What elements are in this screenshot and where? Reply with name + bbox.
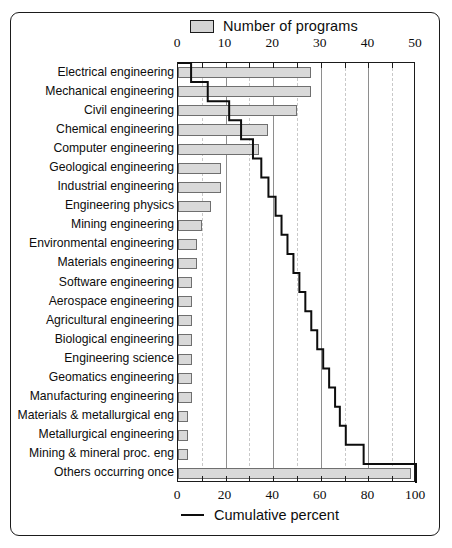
category-label: Industrial engineering [14, 179, 174, 193]
category-axis-labels: Electrical engineeringMechanical enginee… [14, 62, 174, 482]
legend-number-of-programs: Number of programs [190, 16, 358, 36]
axis-tick-label: 30 [313, 35, 327, 51]
axis-tick-label: 40 [361, 35, 375, 51]
cumulative-line-path [178, 63, 416, 483]
top-axis-tick-labels: 01020304050 [177, 35, 415, 51]
legend-bottom-label: Cumulative percent [214, 507, 339, 523]
axis-tick-label: 80 [361, 487, 375, 503]
axis-tick-label: 20 [265, 35, 279, 51]
axis-tick-label: 40 [265, 487, 279, 503]
category-label: Engineering science [14, 351, 174, 365]
category-label: Software engineering [14, 275, 174, 289]
category-label: Materials engineering [14, 255, 174, 269]
legend-cumulative-percent: Cumulative percent [181, 505, 339, 525]
category-label: Mining engineering [14, 217, 174, 231]
line-sample-icon [181, 514, 204, 516]
category-label: Geological engineering [14, 160, 174, 174]
axis-tick-label: 10 [218, 35, 232, 51]
category-label: Metallurgical engineering [14, 427, 174, 441]
category-label: Environmental engineering [14, 236, 174, 250]
category-label: Computer engineering [14, 141, 174, 155]
axis-tick-label: 0 [174, 487, 181, 503]
category-label: Electrical engineering [14, 65, 174, 79]
plot-area [177, 62, 415, 482]
category-label: Chemical engineering [14, 122, 174, 136]
legend-top-label: Number of programs [223, 18, 358, 34]
axis-tick-label: 20 [218, 487, 232, 503]
category-label: Mechanical engineering [14, 84, 174, 98]
category-label: Geomatics engineering [14, 370, 174, 384]
axis-tick-label: 0 [174, 35, 181, 51]
category-label: Engineering physics [14, 198, 174, 212]
category-label: Mining & mineral proc. eng [14, 446, 174, 460]
bar-swatch-icon [190, 20, 214, 33]
pareto-chart-figure: Number of programs 01020304050 Electrica… [0, 0, 452, 548]
category-label: Others occurring once [14, 465, 174, 479]
axis-tick-label: 50 [408, 35, 422, 51]
category-label: Biological engineering [14, 332, 174, 346]
axis-tick-label: 60 [313, 487, 327, 503]
category-label: Aerospace engineering [14, 294, 174, 308]
bottom-axis-tick-labels: 020406080100 [177, 487, 415, 503]
cumulative-percent-line [178, 63, 416, 483]
category-label: Civil engineering [14, 103, 174, 117]
category-label: Manufacturing engineering [14, 389, 174, 403]
category-label: Agricultural engineering [14, 313, 174, 327]
axis-tick-label: 100 [405, 487, 425, 503]
category-label: Materials & metallurgical eng [14, 408, 174, 422]
